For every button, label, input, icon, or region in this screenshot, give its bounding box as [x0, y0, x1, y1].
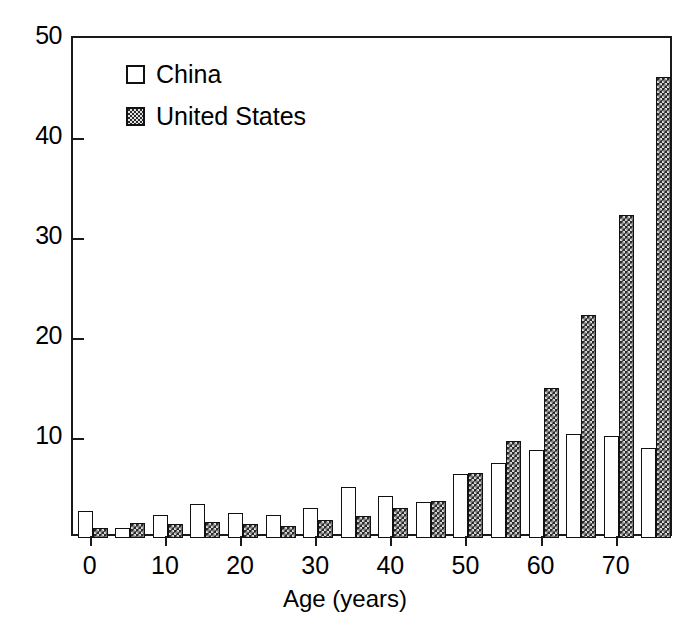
bar-united-states — [544, 388, 559, 538]
legend-label-china: China — [156, 62, 221, 87]
x-axis-tick-label: 0 — [83, 551, 97, 579]
bar-china — [78, 511, 93, 538]
legend-item-china: China — [126, 57, 386, 91]
x-axis-tick-label: 20 — [226, 551, 254, 579]
legend-swatch-china-icon — [126, 65, 145, 84]
bar-china — [491, 463, 506, 538]
bar-united-states — [581, 315, 596, 538]
x-axis-tick-label: 40 — [376, 551, 404, 579]
bar-china — [641, 448, 656, 538]
bar-united-states — [356, 516, 371, 538]
bar-china — [378, 496, 393, 538]
x-axis-tick-label: 70 — [602, 551, 630, 579]
legend: China United States — [126, 57, 386, 141]
bar-united-states — [619, 215, 634, 538]
y-axis-tick-label: 10 — [2, 423, 62, 448]
x-axis-tick-label: 50 — [452, 551, 480, 579]
bar-united-states — [468, 473, 483, 538]
bar-china — [416, 502, 431, 538]
x-axis-tick — [541, 536, 543, 546]
y-axis-tick — [73, 238, 84, 240]
bar-china — [453, 474, 468, 538]
y-axis-tick — [73, 438, 84, 440]
bar-china — [566, 434, 581, 538]
y-axis-tick — [73, 138, 84, 140]
bar-china — [228, 513, 243, 538]
x-axis-tick — [465, 536, 467, 546]
y-axis-tick-label: 50 — [2, 23, 62, 48]
legend-swatch-united-states-icon — [126, 107, 145, 126]
bar-united-states — [431, 501, 446, 538]
legend-label-united-states: United States — [156, 104, 306, 129]
y-axis-labels: 1020304050 — [0, 0, 62, 639]
x-axis-ticks — [71, 536, 672, 548]
x-axis-tick — [390, 536, 392, 546]
x-axis-tick — [165, 536, 167, 546]
x-axis-tick — [616, 536, 618, 546]
bar-china — [266, 515, 281, 538]
bar-china — [604, 436, 619, 538]
bar-united-states — [393, 508, 408, 538]
x-axis-tick — [90, 536, 92, 546]
x-axis-tick-label: 10 — [151, 551, 179, 579]
bar-united-states — [656, 77, 671, 538]
legend-item-united-states: United States — [126, 99, 386, 133]
x-axis-tick-labels: 010203040506070 — [0, 551, 690, 583]
x-axis-tick-label: 60 — [527, 551, 555, 579]
x-axis-title: Age (years) — [0, 585, 690, 613]
bar-chart-figure: 1020304050 010203040506070 Age (years) C… — [0, 0, 690, 639]
bar-china — [529, 450, 544, 538]
x-axis-tick-label: 30 — [301, 551, 329, 579]
bar-united-states — [506, 441, 521, 538]
y-axis-tick — [73, 338, 84, 340]
x-axis-tick — [240, 536, 242, 546]
x-axis-tick — [315, 536, 317, 546]
bar-china — [303, 508, 318, 538]
y-axis-tick-label: 40 — [2, 123, 62, 148]
y-axis-tick-label: 20 — [2, 323, 62, 348]
bar-china — [190, 504, 205, 538]
bar-china — [153, 515, 168, 538]
y-axis-tick-label: 30 — [2, 223, 62, 248]
bar-china — [341, 487, 356, 538]
